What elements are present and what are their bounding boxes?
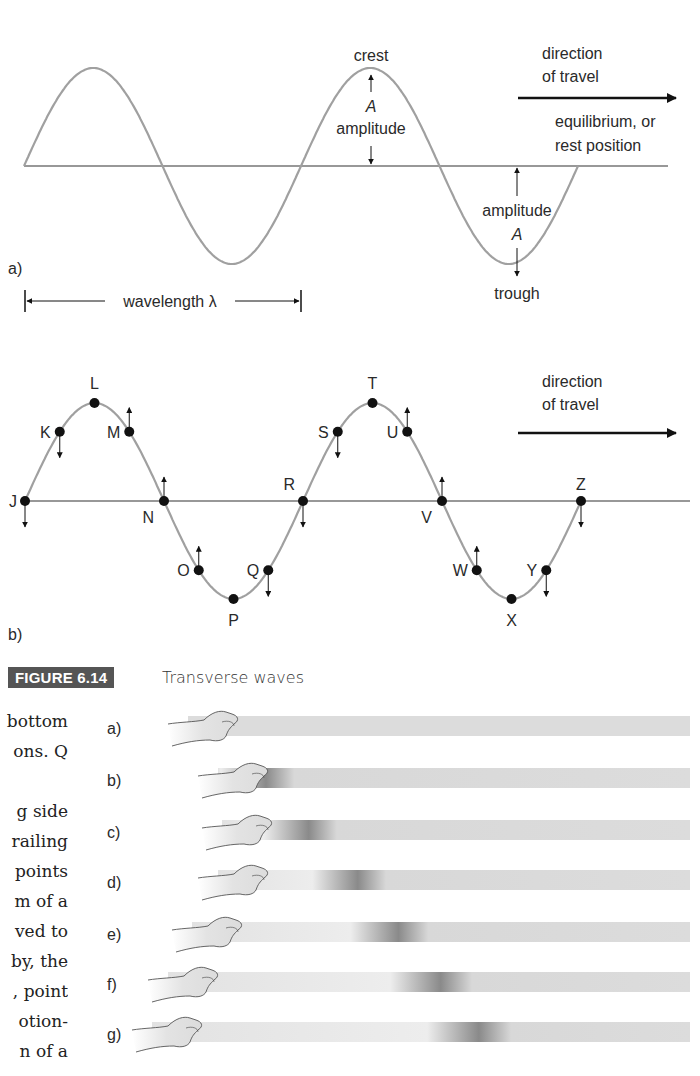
direction-label-b-line2: of travel [542,396,599,413]
point-dot [20,496,30,506]
wave-point-U: U [387,408,413,441]
point-label: O [177,562,189,579]
body-text-line: points [0,856,68,886]
point-dot [194,565,204,575]
wave-point-Z: Z [576,476,586,527]
point-dot [263,565,273,575]
body-text-line: by, the [0,946,68,976]
body-text-line: ved to [0,916,68,946]
spring-bar [192,922,690,942]
body-text-fragment: bottomons. Q g siderailingpointsm of ave… [0,706,68,1066]
amplitude-label-bottom: amplitude [482,202,551,219]
figure-number-badge: FIGURE 6.14 [8,667,114,688]
wave-point-T: T [368,375,378,408]
point-label: N [142,509,154,526]
direction-label-a-line2: of travel [542,68,599,85]
direction-label-b-line1: direction [542,373,602,390]
point-label: M [107,424,120,441]
amplitude-label-top: amplitude [336,120,405,137]
point-dot [333,427,343,437]
body-text-line: m of a [0,886,68,916]
wave-point-J: J [9,493,30,527]
row-label: a) [107,720,121,737]
point-dot [472,565,482,575]
pulse-row: c) [107,815,690,850]
crest-label: crest [354,47,389,64]
body-text-line: , point [0,976,68,1006]
row-label: c) [107,824,120,841]
pulse-row: g) [107,1017,690,1052]
point-label: V [421,509,432,526]
point-label: U [387,424,399,441]
point-label: Y [527,562,538,579]
wave-point-K: K [40,424,65,458]
wave-point-L: L [90,375,100,408]
wave-point-X: X [506,594,517,629]
wave-point-S: S [318,424,343,458]
panel-b: JKLMNOPQRSTUVWXYZ direction of travel b) [8,373,690,643]
row-label: d) [107,874,121,891]
point-label: R [283,476,295,493]
point-label: X [506,612,517,629]
direction-label-a-line1: direction [542,45,602,62]
row-label: g) [107,1026,121,1043]
body-text-line: ons. Q [0,736,68,766]
pulse-row: e) [107,917,690,952]
point-dot [229,594,239,604]
point-dot [298,496,308,506]
body-text-line: railing [0,826,68,856]
wave-points: JKLMNOPQRSTUVWXYZ [9,375,586,629]
row-label: e) [107,926,121,943]
transverse-waves-figure: crest A amplitude amplitude A trough dir… [0,0,700,1076]
point-dot [159,496,169,506]
point-dot [368,398,378,408]
row-label: f) [107,976,117,993]
equilibrium-label-line2: rest position [555,137,641,154]
point-dot [55,427,65,437]
point-label: T [368,375,378,392]
pulse-rows: a)b)c)d)e)f)g) [107,711,690,1052]
spring-bar [152,1022,690,1042]
point-dot [90,398,100,408]
trough-label: trough [494,285,539,302]
point-dot [576,496,586,506]
point-label: L [90,375,99,392]
point-label: Z [576,476,586,493]
pulse-row: b) [107,763,690,798]
spring-bar [188,716,690,736]
body-text-line: bottom [0,706,68,736]
amplitude-symbol-bottom: A [511,226,523,243]
point-dot [437,496,447,506]
point-dot [541,565,551,575]
point-dot [507,594,517,604]
spring-bar [218,768,690,788]
figure-title: Transverse waves [162,668,304,687]
spring-bar [218,870,690,890]
row-label: b) [107,772,121,789]
wave-point-O: O [177,546,203,579]
point-label: K [40,424,51,441]
wave-point-P: P [228,594,239,629]
spring-bar [168,972,690,992]
body-text-line [0,766,68,796]
point-dot [402,427,412,437]
pulse-row: d) [107,865,690,900]
pulse-row: a) [107,711,690,746]
equilibrium-label-line1: equilibrium, or [555,113,656,130]
body-text-line: n of a [0,1036,68,1066]
spring-bar [222,820,690,840]
body-text-line: otion- [0,1006,68,1036]
panel-a-label: a) [8,260,22,277]
wavelength-label: wavelength λ [122,293,216,310]
amplitude-symbol-top: A [365,98,377,115]
point-label: P [228,612,239,629]
point-label: J [9,493,17,510]
point-label: Q [247,562,259,579]
wave-point-W: W [453,546,482,579]
pulse-row: f) [107,967,690,1002]
panel-a: crest A amplitude amplitude A trough dir… [8,45,676,312]
point-label: S [318,424,329,441]
panel-b-label: b) [8,626,22,643]
body-text-line: g side [0,796,68,826]
point-label: W [453,562,469,579]
